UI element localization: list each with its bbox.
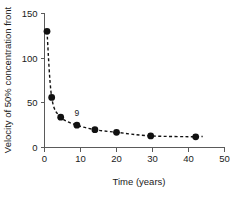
- axes: [45, 14, 225, 148]
- x-tick-label: 40: [183, 153, 194, 164]
- axis-spines: [45, 14, 225, 148]
- data-point: [92, 126, 99, 133]
- data-point: [44, 28, 51, 35]
- data-point: [57, 114, 64, 121]
- data-point: [48, 94, 55, 101]
- x-tick-label: 20: [111, 153, 122, 164]
- series-line: [47, 31, 203, 136]
- y-tick-label: 0: [32, 142, 37, 153]
- data-point: [113, 129, 120, 136]
- x-tick-label: 0: [42, 153, 47, 164]
- point-annotation-label: 9: [75, 108, 80, 118]
- chart-canvas: 01020304050050100150 9 Time (years) Velo…: [0, 0, 242, 198]
- y-tick-label: 150: [22, 8, 38, 19]
- y-tick-label: 50: [27, 97, 38, 108]
- x-tick-label: 30: [147, 153, 158, 164]
- data-point: [74, 122, 81, 129]
- x-tick-label: 10: [75, 153, 86, 164]
- x-tick-label: 50: [219, 153, 230, 164]
- axis-ticks: [41, 14, 225, 152]
- data-point: [147, 132, 154, 139]
- data-series: [47, 31, 203, 136]
- x-axis-title: Time (years): [113, 176, 166, 187]
- data-annotations: 9: [75, 108, 80, 118]
- chart-figure: 01020304050050100150 9 Time (years) Velo…: [0, 0, 242, 198]
- y-tick-label: 100: [22, 53, 38, 64]
- axis-tick-labels: 01020304050050100150: [22, 8, 230, 164]
- y-axis-title: Velocity of 50% concentration front: [2, 6, 13, 153]
- data-markers: [44, 28, 199, 140]
- data-point: [192, 133, 199, 140]
